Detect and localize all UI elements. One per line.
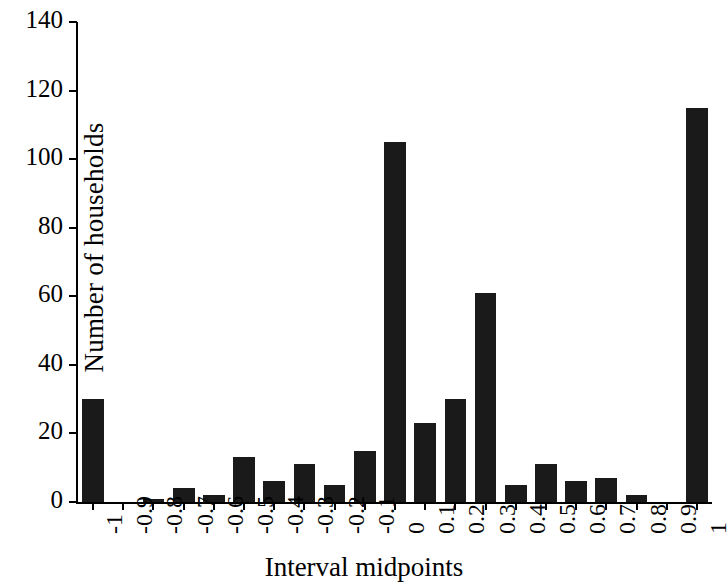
y-axis-tick-label: 80 xyxy=(3,212,63,240)
x-axis-tick xyxy=(213,502,215,510)
y-axis-tick: 20 xyxy=(69,432,77,434)
y-axis-tick: 80 xyxy=(69,227,77,229)
x-axis-tick xyxy=(696,502,698,510)
x-axis-tick xyxy=(364,502,366,510)
bar xyxy=(686,108,708,502)
bar xyxy=(535,464,557,502)
bar-slot xyxy=(169,22,199,502)
bar-slot xyxy=(501,22,531,502)
bar-slot xyxy=(621,22,651,502)
histogram-figure: Number of households 020406080100120140 … xyxy=(0,0,728,588)
bar-slot xyxy=(652,22,682,502)
x-axis-tick xyxy=(575,502,577,510)
bar-slot xyxy=(138,22,168,502)
x-axis-tick xyxy=(545,502,547,510)
bar xyxy=(626,495,648,502)
bar xyxy=(505,485,527,502)
x-axis-tick xyxy=(666,502,668,510)
y-axis-tick-label: 60 xyxy=(3,280,63,308)
x-axis-tick-label: 0 xyxy=(404,522,428,534)
x-axis-tick xyxy=(636,502,638,510)
bar-slot xyxy=(380,22,410,502)
bar-slot xyxy=(682,22,712,502)
x-axis-tick xyxy=(152,502,154,510)
bar-slot xyxy=(410,22,440,502)
bar-slot xyxy=(531,22,561,502)
y-axis-tick-label: 40 xyxy=(3,349,63,377)
bar xyxy=(384,142,406,502)
y-axis-tick: 40 xyxy=(69,364,77,366)
y-axis-tick-label: 100 xyxy=(3,143,63,171)
bar-series xyxy=(78,22,712,502)
bar-slot xyxy=(350,22,380,502)
y-axis-tick: 0 xyxy=(69,501,77,503)
x-axis-tick xyxy=(243,502,245,510)
bar-slot xyxy=(259,22,289,502)
bar xyxy=(565,481,587,502)
bar xyxy=(445,399,467,502)
x-axis-tick-label: 1 xyxy=(706,522,728,534)
bar xyxy=(475,293,497,502)
y-axis-tick-label: 140 xyxy=(3,6,63,34)
x-axis-tick xyxy=(424,502,426,510)
bar-slot xyxy=(440,22,470,502)
x-axis-tick xyxy=(273,502,275,510)
x-axis-tick xyxy=(122,502,124,510)
x-axis-tick xyxy=(334,502,336,510)
bar-slot xyxy=(470,22,500,502)
x-axis-tick xyxy=(605,502,607,510)
plot-area: 020406080100120140 -1-0.9-0.8-0.7-0.6-0.… xyxy=(78,22,712,502)
bar-slot xyxy=(561,22,591,502)
y-axis-tick: 60 xyxy=(69,295,77,297)
x-axis-tick xyxy=(303,502,305,510)
bar xyxy=(82,399,104,502)
x-axis-tick xyxy=(394,502,396,510)
y-axis-tick: 120 xyxy=(69,90,77,92)
bar xyxy=(595,478,617,502)
bar-slot xyxy=(199,22,229,502)
x-axis-tick xyxy=(92,502,94,510)
bar-slot xyxy=(289,22,319,502)
bar-slot xyxy=(591,22,621,502)
y-axis-tick: 100 xyxy=(69,158,77,160)
x-axis-tick-label: -1 xyxy=(102,514,126,534)
y-axis-tick-label: 20 xyxy=(3,417,63,445)
bar-slot xyxy=(229,22,259,502)
x-axis-tick xyxy=(183,502,185,510)
x-axis-tick xyxy=(515,502,517,510)
x-axis-title: Interval midpoints xyxy=(0,552,728,583)
x-axis-tick xyxy=(454,502,456,510)
x-axis-tick xyxy=(485,502,487,510)
bar xyxy=(354,451,376,502)
y-axis-tick-label: 120 xyxy=(3,75,63,103)
bar xyxy=(414,423,436,502)
bar-slot xyxy=(320,22,350,502)
bar-slot xyxy=(108,22,138,502)
y-axis-tick-label: 0 xyxy=(3,486,63,514)
bar-slot xyxy=(78,22,108,502)
y-axis-tick: 140 xyxy=(69,21,77,23)
